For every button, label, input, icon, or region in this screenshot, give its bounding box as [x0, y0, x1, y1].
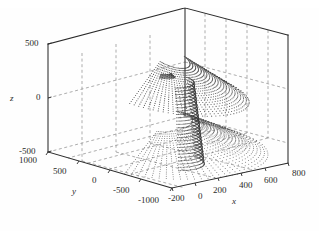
- x-axis-title: x: [232, 197, 236, 206]
- z-axis-title: z: [10, 94, 14, 103]
- grid-floor: [68, 122, 268, 188]
- x-tick-200: 200: [213, 186, 227, 195]
- z-tick-500: 500: [25, 39, 39, 48]
- y-tick-neg1000: -1000: [138, 196, 159, 205]
- y-tick-500: 500: [53, 167, 67, 176]
- y-tick-neg500: -500: [113, 186, 130, 195]
- x-tick-600: 600: [264, 176, 278, 185]
- scan-artifact-band: [0, 0, 319, 8]
- x-tick-400: 400: [239, 181, 253, 190]
- z-tick-0: 0: [36, 93, 41, 102]
- plot-3d-axes-and-data: [0, 0, 319, 231]
- data-point-cloud: [124, 56, 268, 180]
- grid-back-wall-yz: [48, 35, 185, 161]
- x-tick-neg200: -200: [168, 194, 185, 203]
- figure-canvas: 500 0 -500 z 1000 500 0 -500 -1000 y -20…: [0, 0, 319, 231]
- axis-box-edges: [48, 8, 288, 188]
- x-tick-800: 800: [292, 169, 306, 178]
- x-tick-0: 0: [198, 192, 203, 201]
- y-tick-0: 0: [92, 176, 97, 185]
- y-axis-title: y: [72, 187, 76, 196]
- y-tick-1000: 1000: [19, 156, 37, 165]
- grid-back-wall-xz: [185, 14, 288, 144]
